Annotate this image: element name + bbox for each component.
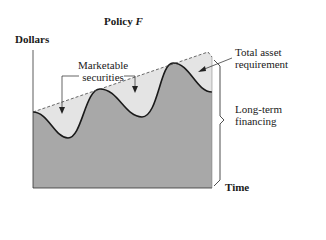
long-term-label: Long-term financing bbox=[235, 103, 282, 127]
marketable-label: Marketable securities bbox=[78, 59, 128, 83]
marketable-line1: Marketable bbox=[78, 59, 128, 71]
longterm-line1: Long-term bbox=[235, 103, 282, 115]
longterm-line2: financing bbox=[235, 115, 282, 127]
total-line2: requirement bbox=[235, 58, 288, 70]
brace-icon bbox=[214, 60, 224, 186]
marketable-line2: securities bbox=[78, 71, 128, 83]
total-asset-label: Total asset requirement bbox=[235, 46, 288, 70]
total-line1: Total asset bbox=[235, 46, 288, 58]
